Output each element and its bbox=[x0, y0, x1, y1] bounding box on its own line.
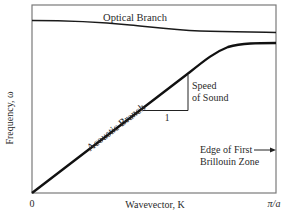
edge-label-line1: Edge of First bbox=[200, 144, 252, 155]
x-tick-pi-over-a: π/a bbox=[268, 198, 281, 209]
edge-label-line2: Brillouin Zone bbox=[200, 156, 260, 167]
x-tick-zero: 0 bbox=[30, 198, 35, 209]
triangle-run-label: 1 bbox=[165, 113, 170, 123]
optical-branch-label: Optical Branch bbox=[103, 12, 168, 23]
dispersion-chart: Optical Branch Acoustic Branch Speed of … bbox=[0, 0, 290, 216]
acoustic-branch-label: Acoustic Branch bbox=[85, 101, 148, 153]
speed-label-line2: of Sound bbox=[192, 92, 228, 103]
slope-triangle bbox=[143, 75, 188, 111]
speed-label-line1: Speed bbox=[192, 80, 216, 91]
x-axis-label: Wavevector, K bbox=[125, 199, 185, 210]
arrow-right-icon bbox=[270, 148, 276, 153]
acoustic-branch-curve bbox=[32, 43, 276, 193]
y-axis-label: Frequency, ω bbox=[4, 91, 15, 145]
